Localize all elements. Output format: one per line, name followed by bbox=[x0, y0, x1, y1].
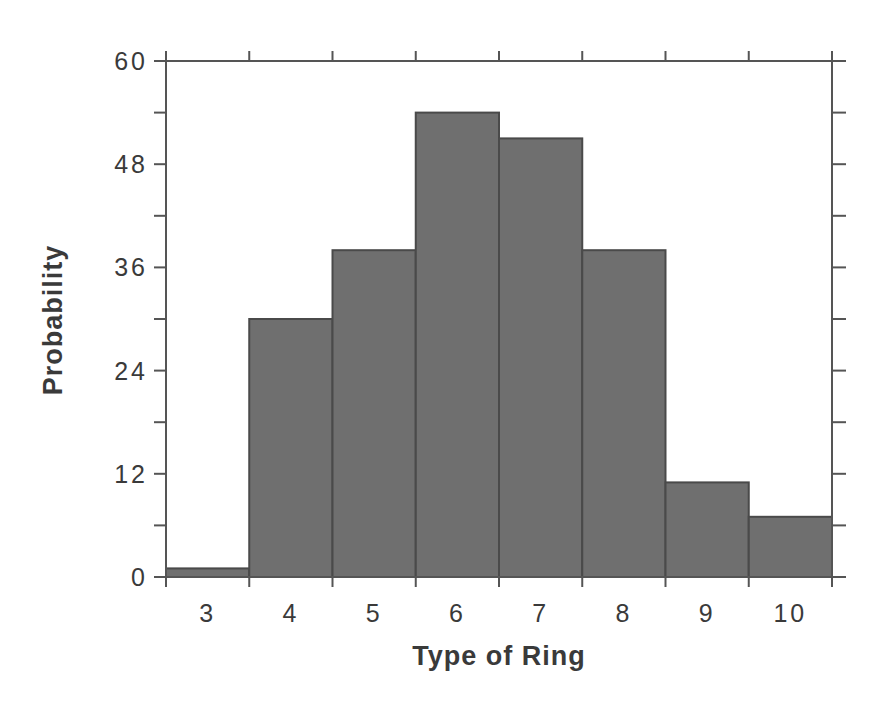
x-tick-label: 9 bbox=[699, 599, 716, 627]
y-tick-label: 12 bbox=[114, 460, 148, 488]
x-tick-label: 7 bbox=[532, 599, 549, 627]
y-tick-label: 24 bbox=[114, 357, 148, 385]
x-tick-label: 6 bbox=[449, 599, 466, 627]
bar-5 bbox=[333, 250, 416, 577]
y-tick-label: 36 bbox=[114, 253, 148, 281]
bar-6 bbox=[416, 113, 499, 577]
bar-3 bbox=[166, 568, 249, 577]
x-tick-labels: 345678910 bbox=[199, 599, 807, 627]
bar-9 bbox=[666, 482, 749, 577]
bars-group bbox=[166, 113, 832, 577]
y-tick-label: 0 bbox=[131, 563, 148, 591]
y-tick-label: 48 bbox=[114, 150, 148, 178]
y-tick-label: 60 bbox=[114, 47, 148, 75]
bar-4 bbox=[249, 319, 332, 577]
bar-10 bbox=[749, 517, 832, 577]
x-tick-label: 8 bbox=[615, 599, 632, 627]
bar-7 bbox=[499, 138, 582, 577]
x-axis-title: Type of Ring bbox=[412, 641, 586, 671]
y-tick-labels: 01224364860 bbox=[114, 47, 148, 591]
x-tick-label: 10 bbox=[773, 599, 807, 627]
x-tick-label: 4 bbox=[282, 599, 299, 627]
bar-8 bbox=[582, 250, 665, 577]
x-tick-label: 3 bbox=[199, 599, 216, 627]
x-tick-label: 5 bbox=[366, 599, 383, 627]
histogram-chart: 01224364860 345678910 Type of Ring Proba… bbox=[0, 0, 878, 702]
y-axis-title: Probability bbox=[38, 245, 68, 396]
